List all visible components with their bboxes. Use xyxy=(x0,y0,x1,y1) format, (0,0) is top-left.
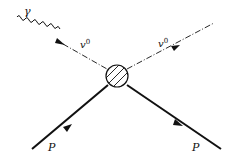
p-outgoing-line xyxy=(127,85,221,149)
feynman-diagram: γ v0 v0 P P xyxy=(0,0,234,158)
v0-outgoing-label: v0 xyxy=(158,37,168,49)
photon-label: γ xyxy=(24,5,31,18)
p-incoming-label: P xyxy=(47,141,56,154)
p-outgoing-label: P xyxy=(191,141,200,154)
p-incoming-line xyxy=(32,85,108,149)
v0-incoming-label: v0 xyxy=(80,38,90,50)
v0-outgoing-arrow-icon xyxy=(171,45,180,51)
v0-outgoing-line xyxy=(127,23,214,69)
p-incoming-arrow-icon xyxy=(63,124,72,132)
vertex-hatched-blob xyxy=(96,62,138,97)
